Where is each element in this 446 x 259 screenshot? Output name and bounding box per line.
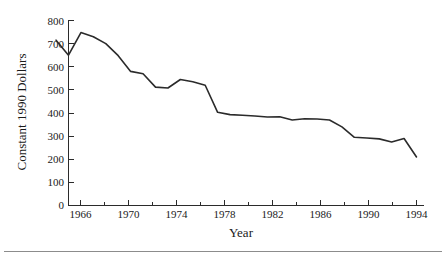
x-tick-label-1978: 1978 [214, 208, 237, 220]
y-axis-title: Constant 1990 Dollars [14, 54, 29, 171]
y-tick-label-600: 600 [48, 61, 65, 73]
x-tick-label-1990: 1990 [358, 208, 381, 220]
x-axis-ticks-minor [105, 202, 393, 206]
y-axis-tick-labels: 0 100 200 300 400 500 600 700 800 [48, 15, 65, 211]
x-tick-label-1994: 1994 [406, 208, 429, 220]
chart-figure: 0 100 200 300 400 500 600 700 800 [0, 0, 446, 259]
x-axis-title: Year [229, 225, 254, 240]
x-tick-label-1982: 1982 [262, 208, 284, 220]
y-tick-label-800: 800 [48, 15, 65, 27]
y-tick-label-0: 0 [59, 199, 65, 211]
x-axis-tick-labels: 1966 1970 1974 1978 1982 1986 1990 1994 [70, 208, 429, 220]
y-tick-label-100: 100 [48, 176, 65, 188]
y-tick-label-200: 200 [48, 153, 65, 165]
x-tick-label-1966: 1966 [70, 208, 93, 220]
line-chart: 0 100 200 300 400 500 600 700 800 [0, 0, 446, 259]
x-tick-label-1986: 1986 [310, 208, 333, 220]
y-tick-label-300: 300 [48, 130, 65, 142]
y-tick-label-500: 500 [48, 84, 65, 96]
x-tick-label-1970: 1970 [118, 208, 141, 220]
x-tick-label-1974: 1974 [166, 208, 189, 220]
y-tick-label-400: 400 [48, 107, 65, 119]
data-series-line [56, 33, 416, 157]
